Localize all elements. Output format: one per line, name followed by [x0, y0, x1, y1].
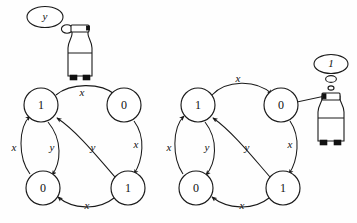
node-R-top-left[interactable]: 1: [181, 88, 215, 122]
edge-L-e1: [56, 86, 116, 95]
edge-label-L-e5: x: [133, 138, 139, 150]
edge-label-R-e2: x: [166, 141, 172, 153]
robot-left-sensor-icon: [87, 26, 90, 30]
edge-label-R-e5: x: [287, 138, 293, 150]
node-label: 1: [125, 181, 131, 195]
edge-label-R-e1: x: [235, 72, 241, 84]
node-label: 0: [278, 98, 284, 112]
left-diagram: y x x y y x x: [11, 7, 145, 211]
node-label: 0: [40, 181, 46, 195]
node-L-bottom-left[interactable]: 0: [26, 171, 60, 205]
node-label: 1: [280, 181, 286, 195]
robot-left: y: [27, 7, 92, 81]
node-label: 1: [195, 98, 201, 112]
robot-right-wheel-left-icon: [320, 140, 327, 145]
robot-left-wheel-right-icon: [83, 75, 90, 80]
node-R-bottom-left[interactable]: 0: [179, 171, 213, 205]
robot-right-pointer-line: [297, 96, 325, 102]
edge-R-e2: [175, 116, 184, 174]
edge-R-e1: [212, 83, 272, 95]
node-L-top-right[interactable]: 0: [107, 88, 141, 122]
node-label: 0: [193, 181, 199, 195]
robot-left-wheel-left-icon: [70, 75, 77, 80]
edge-L-e4: [57, 118, 115, 177]
edge-label-L-e3: y: [49, 141, 55, 153]
edge-label-R-e6: x: [239, 199, 245, 211]
edge-label-L-e1: x: [79, 86, 85, 98]
node-L-bottom-right[interactable]: 1: [111, 171, 145, 205]
node-R-bottom-right[interactable]: 1: [266, 171, 300, 205]
thought-bubble-right-label: 1: [328, 57, 334, 69]
edge-R-e4: [213, 118, 270, 177]
edge-label-R-e3: y: [204, 141, 210, 153]
robot-right-wheel-right-icon: [334, 140, 341, 145]
thought-bubble-right-dot-small: [328, 86, 334, 90]
node-label: 1: [38, 98, 44, 112]
node-R-top-right[interactable]: 0: [264, 88, 298, 122]
right-diagram: x x y y x x 1 0 0: [166, 55, 348, 211]
diagram-canvas: y x x y y x x: [0, 0, 357, 223]
robot-right-sensor-icon: [323, 94, 327, 99]
thought-bubble-right-dot-large: [326, 76, 337, 83]
edge-L-e2: [21, 116, 30, 174]
state-diagram-figure: y x x y y x x: [0, 0, 357, 223]
thought-bubble-left-label: y: [42, 10, 48, 22]
node-L-top-left[interactable]: 1: [24, 88, 58, 122]
edge-label-L-e2: x: [11, 141, 17, 153]
edge-label-L-e6: x: [84, 199, 90, 211]
node-label: 0: [121, 98, 127, 112]
edge-label-L-e4: y: [90, 141, 96, 153]
edge-label-R-e4: y: [244, 141, 250, 153]
robot-right: 1: [297, 55, 348, 146]
